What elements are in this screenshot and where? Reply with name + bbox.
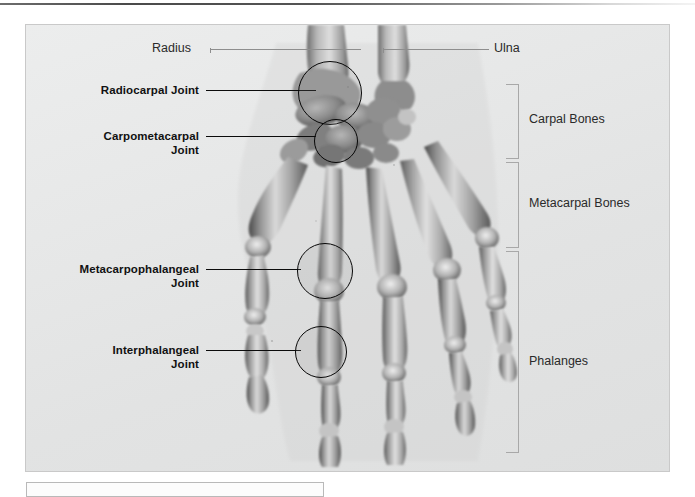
leader-line-radius xyxy=(211,49,361,50)
callout-circle-radiocarpal xyxy=(298,61,362,125)
leader-line-carpometacarpal xyxy=(206,136,316,137)
label-radius: Radius xyxy=(152,41,191,56)
label-radiocarpal-joint: Radiocarpal Joint xyxy=(46,83,199,97)
label-carpometacarpal-joint: Carpometacarpal Joint xyxy=(46,129,199,157)
label-interphalangeal-joint: Interphalangeal Joint xyxy=(46,343,199,371)
label-ulna: Ulna xyxy=(494,41,520,56)
leader-line-metacarpophalangeal xyxy=(206,269,301,270)
callout-circle-metacarpophalangeal xyxy=(297,243,353,299)
top-divider-rule xyxy=(0,3,695,5)
label-phalanges: Phalanges xyxy=(529,354,588,369)
bracket-phalanges xyxy=(506,251,519,453)
bracket-metacarpal-bones xyxy=(506,162,519,248)
bracket-carpal-bones xyxy=(506,84,519,159)
label-metacarpophalangeal-joint: Metacarpophalangeal Joint xyxy=(29,262,199,290)
label-carpal-bones: Carpal Bones xyxy=(529,112,605,127)
leader-line-interphalangeal xyxy=(206,350,301,351)
annotation-overlay: Radius Ulna Radiocarpal Joint Carpometac… xyxy=(26,25,669,471)
caption-box xyxy=(26,482,324,497)
callout-circle-interphalangeal xyxy=(295,326,347,378)
label-metacarpal-bones: Metacarpal Bones xyxy=(529,196,630,211)
anatomy-figure-frame: Radius Ulna Radiocarpal Joint Carpometac… xyxy=(25,24,670,472)
callout-circle-carpometacarpal xyxy=(314,119,358,163)
leader-line-ulna xyxy=(384,49,489,50)
